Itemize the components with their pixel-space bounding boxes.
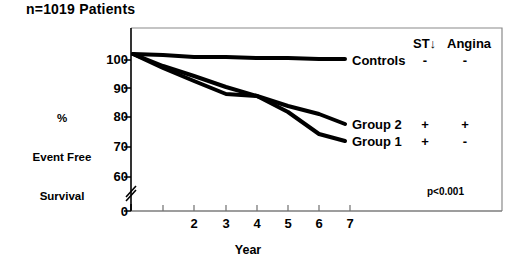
p-value-annotation: p<0.001 <box>427 186 464 197</box>
survival-chart-figure: n=1019 Patients % Event Free Survival 10… <box>0 0 525 271</box>
legend-label-group-2: Group 2 <box>352 117 402 132</box>
legend-st-controls: - <box>412 53 438 68</box>
curve-controls <box>133 54 345 59</box>
legend-angina-group-2: + <box>452 117 478 132</box>
legend-st-group-1: + <box>412 134 438 149</box>
legend-angina-controls: - <box>452 53 478 68</box>
legend-label-controls: Controls <box>352 53 405 68</box>
legend-angina-group-1: - <box>452 134 478 149</box>
curve-group-2 <box>133 54 345 124</box>
legend-header-st: ST↓ <box>413 36 436 51</box>
legend-label-group-1: Group 1 <box>352 134 402 149</box>
legend-st-group-2: + <box>412 117 438 132</box>
curve-group-1 <box>133 54 345 141</box>
legend-header-angina: Angina <box>447 36 491 51</box>
